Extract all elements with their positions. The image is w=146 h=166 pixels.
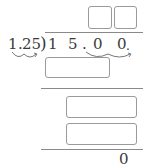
dividend-digit-2: 5 bbox=[68, 36, 78, 52]
difference-box-1[interactable] bbox=[66, 96, 137, 118]
product-box-2[interactable] bbox=[66, 123, 137, 145]
dividend-digit-1: 1 bbox=[48, 36, 58, 52]
quotient-digit-box-1[interactable] bbox=[88, 6, 112, 29]
division-bar bbox=[45, 32, 143, 33]
quotient-digit-box-2[interactable] bbox=[114, 6, 137, 29]
remainder: 0 bbox=[119, 151, 129, 166]
product-box-1[interactable] bbox=[45, 57, 110, 78]
decimal-shift-arc-divisor bbox=[10, 50, 40, 62]
subtraction-line-1 bbox=[41, 88, 143, 89]
division-bracket: ) bbox=[40, 35, 47, 51]
